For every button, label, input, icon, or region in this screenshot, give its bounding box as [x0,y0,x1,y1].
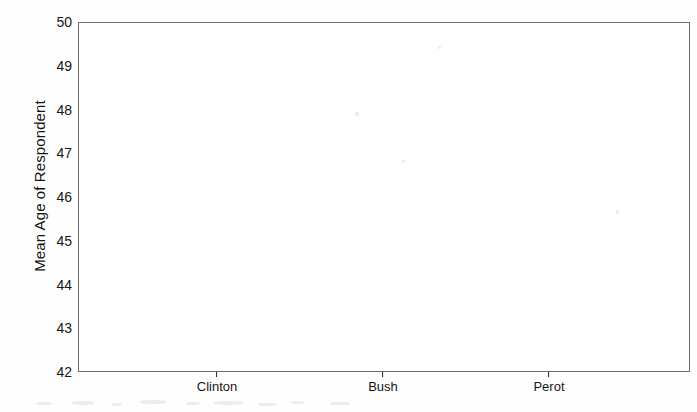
y-tick-label: 46 [26,190,72,204]
y-tick-label: 49 [26,59,72,73]
y-tick-label: 42 [26,365,72,379]
y-tick-label: 45 [26,234,72,248]
scan-artifact [36,402,52,405]
scan-artifact [186,402,200,405]
x-tick-mark [216,372,217,377]
x-tick-label-bush: Bush [323,379,443,394]
x-tick-label-perot: Perot [489,379,609,394]
x-tick-mark [548,372,549,377]
scan-artifact [616,210,619,214]
y-tick-label: 50 [26,15,72,29]
scan-artifact [72,401,94,405]
y-tick-label: 48 [26,103,72,117]
y-axis-tick-labels: 50 49 48 47 46 45 44 43 42 [20,0,72,412]
scan-artifact [438,46,441,49]
scan-artifact [258,403,276,406]
scan-artifact [292,401,304,404]
y-tick-label: 43 [26,321,72,335]
y-tick-label: 44 [26,278,72,292]
scan-artifact [112,403,122,406]
x-tick-label-clinton: Clinton [157,379,277,394]
y-tick-label: 47 [26,146,72,160]
scan-artifact [402,160,405,163]
scan-artifact [140,400,166,404]
scan-artifact [355,112,359,116]
scan-artifact [214,401,244,405]
plot-area [79,23,689,371]
plot-frame [78,22,690,372]
x-tick-mark [382,372,383,377]
chart-figure: Mean Age of Respondent 50 49 48 47 46 45… [0,0,697,412]
scan-artifact [330,402,350,405]
